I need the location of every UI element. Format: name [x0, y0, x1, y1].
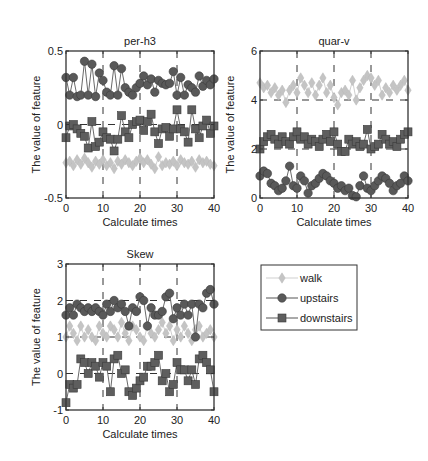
x-tick-label: 20 [328, 202, 340, 214]
x-tick-label: 30 [365, 202, 377, 214]
x-tick-label: 0 [63, 202, 69, 214]
x-tick-label: 0 [63, 414, 69, 426]
x-tick-label: 40 [208, 202, 220, 214]
x-axis-label: Calculate times [102, 216, 178, 228]
x-tick-label: 40 [208, 414, 220, 426]
y-tick-label: -1 [53, 404, 63, 416]
series-walk [257, 70, 411, 110]
legend-label: upstairs [300, 292, 339, 304]
y-tick-label: 0 [251, 192, 257, 204]
y-tick-label: 2 [251, 143, 257, 155]
y-tick-label: -0.5 [44, 192, 63, 204]
series-downstairs [62, 351, 218, 406]
legend-entry-downstairs: downstairs [266, 312, 353, 324]
x-tick-label: 0 [257, 202, 263, 214]
y-tick-label: 1 [57, 331, 63, 343]
y-axis-label: The value of feature [30, 76, 42, 174]
y-tick-label: 3 [57, 258, 63, 270]
y-tick-label: 0 [57, 368, 63, 380]
y-tick-label: 0 [57, 119, 63, 131]
figure: 010203040-0.500.5per-h3Calculate timesTh… [0, 0, 428, 461]
y-axis-label: The value of feature [30, 288, 42, 386]
y-tick-label: 6 [251, 45, 257, 57]
x-tick-label: 10 [97, 414, 109, 426]
y-axis-label: The value of feature [224, 76, 236, 174]
x-tick-label: 30 [171, 202, 183, 214]
x-tick-label: 20 [134, 414, 146, 426]
x-axis-label: Calculate times [296, 216, 372, 228]
chart-panel-skew: 010203040-10123SkewCalculate timesThe va… [30, 248, 220, 440]
x-tick-label: 20 [134, 202, 146, 214]
y-tick-label: 4 [251, 94, 257, 106]
y-tick-label: 2 [57, 295, 63, 307]
x-tick-label: 10 [291, 202, 303, 214]
chart-panel-per-h3: 010203040-0.500.5per-h3Calculate timesTh… [30, 35, 220, 228]
y-tick-label: 0.5 [48, 45, 63, 57]
chart-title: quar-v [318, 35, 350, 47]
series-walk [63, 152, 217, 174]
x-axis-label: Calculate times [102, 428, 178, 440]
chart-panel-quar-v: 0102030400246quar-vCalculate timesThe va… [224, 35, 414, 228]
legend-label: walk [299, 272, 323, 284]
x-tick-label: 30 [171, 414, 183, 426]
chart-title: per-h3 [124, 35, 156, 47]
legend: walkupstairsdownstairs [261, 265, 357, 330]
chart-title: Skew [127, 248, 154, 260]
x-tick-label: 40 [402, 202, 414, 214]
x-tick-label: 10 [97, 202, 109, 214]
legend-label: downstairs [300, 312, 353, 324]
